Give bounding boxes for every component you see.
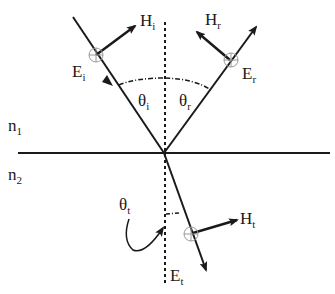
label-h-incident: Hi xyxy=(140,11,155,32)
label-e-reflected: Er xyxy=(242,64,256,85)
label-h-reflected: Hr xyxy=(205,10,221,31)
fresnel-diagram: Hi Ei θi Hr Er θr n1 n2 θt Ht Et xyxy=(0,0,335,294)
e-reflected-marker-icon xyxy=(224,53,238,67)
label-n1: n1 xyxy=(8,116,22,137)
label-theta-reflected: θr xyxy=(179,91,191,112)
h-transmitted-vector xyxy=(193,220,237,233)
e-incident-marker-icon xyxy=(89,48,103,62)
e-transmitted-marker-icon xyxy=(184,227,198,241)
theta-t-pointer-arrow xyxy=(126,219,163,251)
label-n2: n2 xyxy=(8,165,22,186)
theta-i-arc xyxy=(119,78,165,85)
theta-r-arc xyxy=(165,78,211,90)
incident-ray-arrow-icon xyxy=(102,75,113,86)
label-h-transmitted: Ht xyxy=(240,209,255,230)
label-e-transmitted: Et xyxy=(170,266,183,287)
theta-t-arc xyxy=(166,213,179,214)
label-theta-incident: θi xyxy=(138,91,149,112)
label-e-incident: Ei xyxy=(72,62,85,83)
transmitted-ray xyxy=(164,153,206,270)
label-theta-transmitted: θt xyxy=(119,195,130,216)
